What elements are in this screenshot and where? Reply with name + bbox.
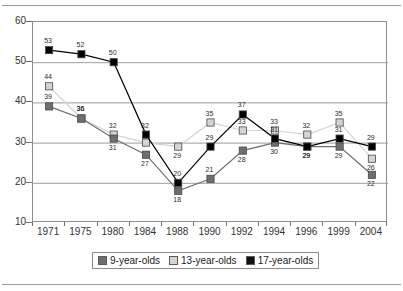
chart-plot-svg [33,22,388,223]
data-marker [110,59,117,66]
data-marker [368,155,375,162]
point-value-label: 31 [264,126,284,133]
point-value-label: 50 [103,49,123,56]
data-marker [304,143,311,150]
point-value-label: 39 [38,93,58,100]
point-value-label: 29 [329,152,349,159]
data-marker [207,143,214,150]
point-value-label: 35 [329,110,349,117]
data-marker [175,187,182,194]
point-value-label: 22 [361,180,381,187]
point-value-label: 36 [70,105,90,112]
y-axis-tick-label: 60 [4,16,26,26]
x-axis-tick-mark [355,222,356,226]
data-marker [207,175,214,182]
point-value-label: 33 [264,118,284,125]
point-value-label: 44 [38,73,58,80]
point-value-label: 20 [167,170,187,177]
data-marker [207,119,214,126]
legend-swatch-icon [246,256,255,265]
legend-label: 13-year-olds [181,255,237,266]
legend-swatch-icon [169,256,178,265]
x-axis-tick-mark [258,222,259,226]
x-axis-tick-mark [64,222,65,226]
point-value-label: 18 [167,196,187,203]
y-axis-tick-label: 10 [4,217,26,227]
point-value-label: 31 [103,144,123,151]
y-axis-tick-label: 40 [4,96,26,106]
y-axis-tick-label: 20 [4,177,26,187]
top-divider-rule [2,5,401,6]
point-value-label: 32 [135,122,155,129]
x-axis-tick-mark [161,222,162,226]
data-marker [368,171,375,178]
point-value-label: 29 [167,152,187,159]
legend-item[interactable]: 17-year-olds [246,255,314,266]
data-marker [368,143,375,150]
data-marker [142,131,149,138]
point-value-label: 29 [361,134,381,141]
point-value-label: 32 [103,122,123,129]
y-axis-tick-label: 50 [4,56,26,66]
point-value-label: 30 [264,148,284,155]
data-marker [239,127,246,134]
data-marker [336,135,343,142]
point-value-label: 27 [135,160,155,167]
x-axis-tick-mark [386,222,387,226]
point-value-label: 31 [329,126,349,133]
legend-label: 9-year-olds [110,255,160,266]
data-marker [78,51,85,58]
data-marker [175,143,182,150]
point-value-label: 21 [200,166,220,173]
point-value-label: 35 [200,110,220,117]
data-marker [239,147,246,154]
point-value-label: 37 [232,101,252,108]
point-value-label: 29 [296,152,316,159]
bottom-divider-rule [2,284,401,285]
data-marker [142,139,149,146]
chart-page: 102030405060 197119751980198419881990199… [0,0,403,291]
data-marker [336,143,343,150]
point-value-label: 28 [232,156,252,163]
data-marker [110,135,117,142]
data-marker [142,151,149,158]
point-value-label: 33 [232,118,252,125]
x-axis-tick-mark [322,222,323,226]
data-marker [271,135,278,142]
y-axis-tick-label: 30 [4,137,26,147]
x-axis-tick-mark [32,222,33,226]
data-marker [78,115,85,122]
x-axis-tick-mark [129,222,130,226]
data-marker [46,83,53,90]
data-marker [46,47,53,54]
x-axis-tick-mark [290,222,291,226]
point-value-label: 52 [70,41,90,48]
legend-item[interactable]: 13-year-olds [169,255,237,266]
x-axis-tick-mark [97,222,98,226]
point-value-label: 53 [38,37,58,44]
legend-item[interactable]: 9-year-olds [98,255,160,266]
data-marker [175,179,182,186]
legend-swatch-icon [98,256,107,265]
x-axis-tick-mark [193,222,194,226]
legend-label: 17-year-olds [258,255,314,266]
data-marker [46,103,53,110]
point-value-label: 26 [361,164,381,171]
chart-legend: 9-year-olds13-year-olds17-year-olds [92,252,319,269]
x-axis-tick-label: 2004 [351,226,391,237]
point-value-label: 32 [296,122,316,129]
data-marker [304,131,311,138]
x-axis-tick-mark [226,222,227,226]
point-value-label: 29 [200,134,220,141]
plot-area [32,21,387,222]
